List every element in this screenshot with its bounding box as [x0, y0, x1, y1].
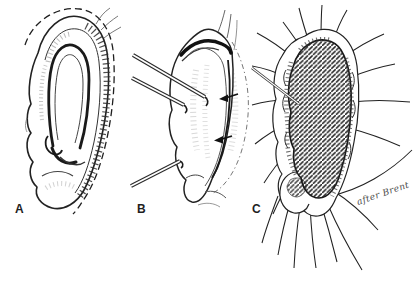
panel-c-graft-sutures-illustration: after Brent C	[252, 5, 412, 270]
attribution-signature: after Brent	[355, 180, 410, 207]
suture-thread	[351, 101, 410, 103]
surgical-illustration-figure: A	[0, 0, 420, 285]
panel-c-label: C	[252, 202, 261, 216]
skin-hook-instrument-3	[131, 161, 183, 186]
panel-b-label: B	[137, 202, 146, 216]
suture-thread	[328, 205, 362, 270]
panel-a-ear-incision-illustration: A	[15, 8, 121, 216]
panel-a-label: A	[15, 202, 24, 216]
figure-canvas: A	[0, 0, 420, 285]
suture-thread	[262, 196, 278, 243]
panel-b-ear-elevation-illustration: B	[131, 10, 248, 216]
suture-thread	[294, 207, 300, 268]
